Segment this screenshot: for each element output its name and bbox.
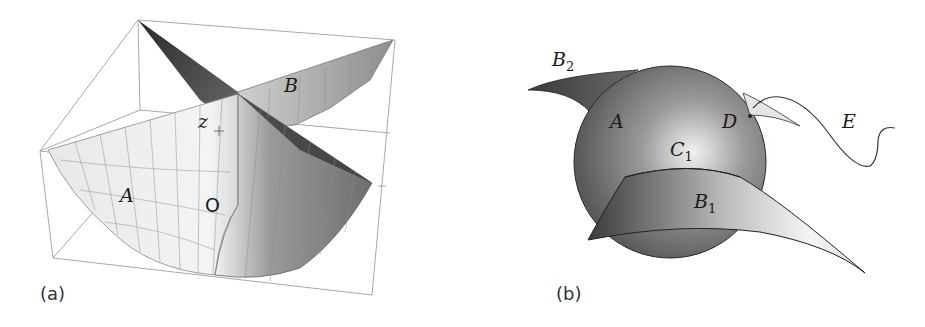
label-b1: B1 <box>694 192 716 215</box>
surface-plot-a <box>0 0 460 327</box>
panel-a: B z A O (a) <box>0 0 460 327</box>
label-origin: O <box>205 196 220 215</box>
label-c1: C1 <box>670 140 693 163</box>
point-d <box>748 114 752 118</box>
caption-a: (a) <box>40 283 65 304</box>
label-z: z <box>198 112 208 131</box>
panel-b: B2 A D E C1 B1 (b) <box>460 0 925 327</box>
label-b: B <box>284 76 298 95</box>
label-b2: B2 <box>552 50 574 73</box>
label-e: E <box>842 112 856 131</box>
label-d: D <box>722 112 737 131</box>
caption-b: (b) <box>556 283 581 304</box>
label-a: A <box>120 186 134 205</box>
label-a-sphere: A <box>610 112 624 131</box>
